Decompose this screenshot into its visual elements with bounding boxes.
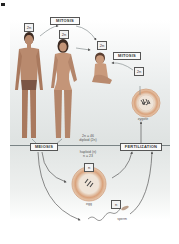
ploidy-tag-baby: 2n: [97, 41, 107, 50]
egg-label: egg: [80, 202, 98, 206]
diploid-label: diploid (2n): [68, 138, 108, 142]
baby-figure: [92, 53, 112, 85]
mitosis-label-right: MITOSIS: [113, 52, 141, 60]
ploidy-tag-male: 2n: [24, 23, 34, 32]
zygote-label: zygote: [128, 117, 158, 121]
female-figure: [51, 39, 77, 138]
fertilization-label: FERTILIZATION: [120, 143, 162, 151]
ploidy-tag-zygote: 2n: [134, 67, 144, 76]
sperm-label: sperm: [112, 217, 132, 221]
haploid-count: n = 23: [68, 154, 108, 158]
ploidy-tag-sperm: n: [111, 200, 121, 209]
ploidy-tag-female: 2n: [59, 30, 69, 39]
egg-cell: [72, 167, 106, 201]
ploidy-tag-egg: n: [84, 163, 94, 172]
zygote-cell: [132, 89, 160, 117]
mitosis-label-top: MITOSIS: [50, 17, 80, 25]
meiosis-label: MEIOSIS: [30, 143, 58, 151]
male-figure: [15, 32, 43, 138]
diagram-graphics: [0, 0, 179, 244]
